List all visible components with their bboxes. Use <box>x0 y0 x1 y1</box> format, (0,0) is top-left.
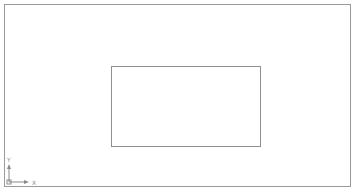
drawing-viewport[interactable] <box>4 4 351 187</box>
rectangle-shape[interactable] <box>111 66 261 147</box>
